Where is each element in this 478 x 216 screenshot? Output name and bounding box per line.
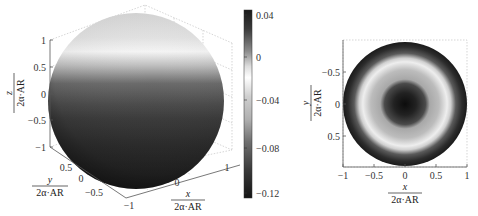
svg-text:y: y bbox=[47, 174, 53, 185]
svg-text:2α·AR: 2α·AR bbox=[15, 79, 26, 107]
svg-text:x: x bbox=[185, 188, 191, 199]
y-tick-label: −0.5 bbox=[85, 187, 103, 198]
colorbar-gradient bbox=[244, 10, 252, 198]
svg-text:2α·AR: 2α·AR bbox=[391, 194, 419, 205]
colorbar: 0.04 0 −0.04 −0.08 −0.12 bbox=[244, 10, 279, 199]
disk-heatmap bbox=[343, 42, 467, 166]
y-axis-label: y 2α·AR bbox=[300, 85, 323, 121]
x-tick-label: 1 bbox=[225, 162, 230, 173]
right-top-view-plot: −0.5 0 0.5 −1 −0.5 0 0.5 1 x 2α·AR y 2α·… bbox=[300, 40, 470, 205]
colorbar-tick-label: −0.12 bbox=[256, 188, 279, 199]
x-tick-label: 1 bbox=[465, 170, 470, 181]
x-tick-label: 0 bbox=[403, 170, 408, 181]
figure: 1 0.5 0 −0.5 −1 z 2α·AR 0.5 0 −0.5 y 2α·… bbox=[0, 0, 478, 216]
y-axis-label: y 2α·AR bbox=[32, 174, 68, 198]
x-axis-label: x 2α·AR bbox=[171, 188, 205, 212]
x-tick-label: 0 bbox=[175, 177, 180, 188]
colorbar-tick-label: 0.04 bbox=[256, 10, 274, 21]
y-tick-label: 0.5 bbox=[60, 162, 73, 173]
svg-text:x: x bbox=[402, 181, 408, 192]
y-tick-label: −0.5 bbox=[322, 67, 340, 78]
y-tick-label: 0.5 bbox=[328, 131, 341, 142]
z-axis-label: z 2α·AR bbox=[3, 73, 26, 113]
x-axis-label: x 2α·AR bbox=[388, 181, 422, 205]
svg-text:z: z bbox=[3, 91, 14, 96]
sphere-shading bbox=[48, 13, 224, 189]
x-tick-label: −1 bbox=[338, 170, 349, 181]
x-tick-label: −1 bbox=[124, 200, 135, 211]
x-tick-label: −0.5 bbox=[365, 170, 383, 181]
y-tick-label: 0 bbox=[335, 99, 340, 110]
z-tick-label: 0.5 bbox=[34, 62, 47, 73]
svg-text:y: y bbox=[300, 100, 311, 106]
svg-text:2α·AR: 2α·AR bbox=[36, 187, 64, 198]
svg-text:2α·AR: 2α·AR bbox=[174, 201, 202, 212]
z-tick-label: −0.5 bbox=[28, 115, 46, 126]
z-tick-label: 0 bbox=[41, 89, 46, 100]
x-tick-label: 0.5 bbox=[430, 170, 443, 181]
y-tick-label: 0 bbox=[79, 173, 84, 184]
colorbar-tick-label: 0 bbox=[256, 52, 261, 63]
z-tick-label: −1 bbox=[35, 142, 46, 153]
left-3d-plot: 1 0.5 0 −0.5 −1 z 2α·AR 0.5 0 −0.5 y 2α·… bbox=[3, 5, 240, 212]
colorbar-tick-label: −0.04 bbox=[256, 95, 279, 106]
svg-text:2α·AR: 2α·AR bbox=[312, 89, 323, 117]
colorbar-tick-label: −0.08 bbox=[256, 143, 279, 154]
z-tick-label: 1 bbox=[41, 35, 46, 46]
